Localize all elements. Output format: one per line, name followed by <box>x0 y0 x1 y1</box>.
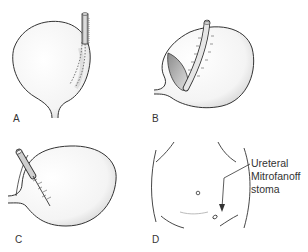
arrowhead-icon <box>219 204 225 212</box>
abdomen-left-side <box>152 150 157 222</box>
stoma-annotation: Ureteral Mitrofanoff stoma <box>251 157 300 196</box>
panel-c-diagram <box>8 146 116 226</box>
figure-canvas <box>0 0 308 252</box>
annotation-line-3: stoma <box>251 183 300 196</box>
abdomen-right-upper <box>218 142 236 162</box>
panel-a-diagram <box>13 13 90 118</box>
pointer-line <box>222 164 250 208</box>
tube-a <box>82 13 89 44</box>
panel-label-c: C <box>15 234 22 245</box>
abdomen-crease <box>180 212 208 214</box>
panel-label-a: A <box>13 113 20 124</box>
panel-label-b: B <box>152 113 159 124</box>
annotation-line-1: Ureteral <box>251 157 300 170</box>
abdomen-right-side <box>244 148 250 228</box>
abdomen-right-lower <box>220 215 238 226</box>
mitrofanoff-stoma <box>212 214 218 219</box>
umbilicus-stoma <box>196 191 200 195</box>
panel-d-diagram <box>152 142 251 228</box>
abdomen-left-upper <box>156 142 174 162</box>
bladder-a <box>13 21 90 118</box>
panel-label-d: D <box>152 234 159 245</box>
abdomen-left-lower <box>161 216 184 228</box>
annotation-line-2: Mitrofanoff <box>251 170 300 183</box>
panel-b-diagram <box>154 22 254 108</box>
